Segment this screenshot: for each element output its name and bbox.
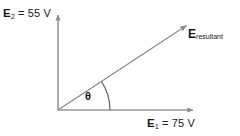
e1-label: E1 = 75 V — [147, 118, 195, 130]
resultant-vector-arrow — [58, 26, 187, 111]
e1-symbol: E — [147, 117, 155, 129]
vector-diagram-figure: E2 = 55 V E1 = 75 V Eresultant θ — [0, 0, 240, 136]
e2-symbol: E — [3, 7, 11, 19]
e1-value: = 75 V — [159, 117, 195, 129]
resultant-label: Eresultant — [188, 28, 223, 40]
angle-arc — [102, 82, 111, 111]
resultant-subscript: resultant — [196, 33, 223, 40]
e2-label: E2 = 55 V — [3, 8, 51, 20]
vector-diagram-canvas — [0, 0, 240, 136]
theta-angle-label: θ — [85, 91, 91, 102]
e2-value: = 55 V — [15, 7, 51, 19]
resultant-symbol: E — [188, 27, 196, 41]
